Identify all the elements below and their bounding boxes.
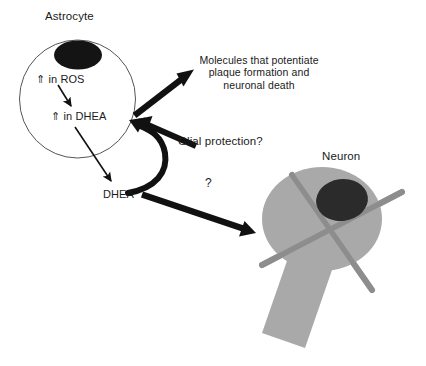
arrow-dhea-to-neuron [142,195,256,237]
glial-protection-label: Glial protection? [178,135,263,149]
molecules-text-block: Molecules that potentiateplaque formatio… [196,54,322,91]
up-arrow-icon: ⇑ [36,73,45,86]
ros-increase-label: ⇑ in ROS [36,73,85,87]
molecules-line-1: Molecules that potentiate [199,54,318,66]
up-arrow-icon: ⇑ [51,110,60,123]
dhea-increase-label-text: in DHEA [60,110,106,122]
astrocyte-nucleus [54,41,102,70]
arrow-astrocyte-to-molecules [135,70,195,116]
dhea-extracellular-label: DHEA [103,188,134,201]
neuron-label: Neuron [322,150,360,164]
dhea-increase-label: ⇑ in DHEA [51,110,106,124]
molecules-line-2: plaque formation and [209,66,310,78]
neuron-cell [262,167,402,348]
molecules-line-3: neuronal death [223,79,294,91]
ros-label-text: in ROS [45,73,84,85]
question-mark-label: ? [205,176,212,190]
diagram-canvas: Astrocyte ⇑ in ROS ⇑ in DHEA DHEA Molecu… [0,0,426,366]
astrocyte-label: Astrocyte [45,10,94,24]
